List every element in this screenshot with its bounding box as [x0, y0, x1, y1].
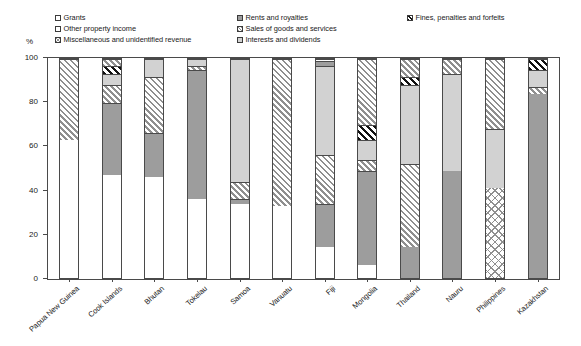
bar-segment[interactable]	[401, 59, 419, 77]
bar-segment[interactable]	[358, 171, 376, 265]
bar-segment[interactable]	[358, 265, 376, 278]
legend-swatch-icon	[55, 26, 61, 32]
bar-slot	[91, 58, 134, 279]
stacked-bar[interactable]	[400, 58, 420, 279]
bar-segment[interactable]	[529, 70, 547, 88]
bar-segment[interactable]	[273, 59, 291, 206]
bar-segment[interactable]	[401, 247, 419, 278]
bar-segment[interactable]	[273, 206, 291, 278]
legend-item-label: Other property income	[64, 23, 136, 34]
bar-segment[interactable]	[443, 171, 461, 278]
bar-segment[interactable]	[486, 129, 504, 188]
bar-slot	[48, 58, 91, 279]
bar-segment[interactable]	[486, 188, 504, 278]
bar-slot	[346, 58, 389, 279]
bar-segment[interactable]	[145, 133, 163, 177]
bar-segment[interactable]	[145, 77, 163, 134]
bar-segment[interactable]	[316, 155, 334, 203]
bar-slot	[261, 58, 304, 279]
legend-swatch-icon	[237, 37, 243, 43]
bar-segment[interactable]	[145, 59, 163, 77]
bar-segment[interactable]	[188, 199, 206, 278]
bar-segment[interactable]	[529, 94, 547, 278]
x-axis-label: Fiji	[324, 284, 337, 297]
bar-segment[interactable]	[401, 77, 419, 86]
x-axis-labels: Papua New GuineaCook IslandsBhutanTokela…	[48, 284, 559, 344]
bar-segment[interactable]	[103, 74, 121, 85]
stacked-bar[interactable]	[144, 58, 164, 279]
legend-item[interactable]: Miscellaneous and unidentified revenue	[55, 34, 237, 45]
bar-slot	[431, 58, 474, 279]
legend-swatch-icon	[55, 37, 61, 43]
legend-item[interactable]: Other property income	[55, 23, 237, 34]
y-axis-unit-label: %	[26, 37, 33, 46]
bar-slot	[389, 58, 432, 279]
bar-segment[interactable]	[60, 59, 78, 140]
bar-segment[interactable]	[231, 59, 249, 182]
bar-segment[interactable]	[231, 182, 249, 200]
bar-segment[interactable]	[103, 66, 121, 75]
stacked-bar[interactable]	[59, 58, 79, 279]
stacked-bar[interactable]	[357, 58, 377, 279]
stacked-bar[interactable]	[528, 58, 548, 279]
bar-segment[interactable]	[443, 74, 461, 170]
y-axis-tick-label: 20	[29, 229, 38, 238]
bar-segment[interactable]	[103, 175, 121, 278]
legend-item[interactable]: Sales of goods and services	[237, 23, 407, 34]
x-axis-label: Nauru	[444, 284, 465, 304]
bar-segment[interactable]	[529, 59, 547, 70]
bar-segment[interactable]	[103, 85, 121, 103]
bar-slot	[176, 58, 219, 279]
legend-item-label: Fines, penalties and forfeits	[416, 12, 505, 23]
x-axis-tick-mark	[410, 279, 411, 282]
stacked-bar[interactable]	[442, 58, 462, 279]
x-axis-label: Tokelau	[184, 284, 209, 308]
stacked-bar[interactable]	[485, 58, 505, 279]
bar-segment[interactable]	[231, 204, 249, 278]
bar-segment[interactable]	[358, 140, 376, 160]
bar-slot	[133, 58, 176, 279]
bar-segment[interactable]	[358, 59, 376, 125]
legend-item[interactable]: Interests and dividends	[237, 34, 407, 45]
bar-segment[interactable]	[486, 59, 504, 129]
legend-item[interactable]: Fines, penalties and forfeits	[407, 12, 567, 23]
stacked-bar[interactable]	[315, 58, 335, 279]
bar-segment[interactable]	[188, 70, 206, 199]
x-axis-label: Vanuatu	[268, 284, 294, 309]
bar-segment[interactable]	[60, 140, 78, 278]
bar-segment[interactable]	[145, 177, 163, 278]
x-axis-tick-mark	[367, 279, 368, 282]
legend-item[interactable]: Grants	[55, 12, 237, 23]
y-axis-tick-label: 40	[29, 185, 38, 194]
legend-item[interactable]: Rents and royalties	[237, 12, 407, 23]
bar-segment[interactable]	[316, 204, 334, 248]
stacked-bar[interactable]	[187, 58, 207, 279]
x-axis-label: Thailand	[395, 284, 422, 310]
x-axis-label: Mongolia	[351, 284, 379, 311]
bar-segment[interactable]	[358, 125, 376, 140]
legend-item-label: Rents and royalties	[246, 12, 308, 23]
y-axis-tick-label: 100	[25, 53, 38, 62]
x-axis-tick-mark	[154, 279, 155, 282]
bar-segment[interactable]	[401, 164, 419, 247]
stacked-bar[interactable]	[102, 58, 122, 279]
legend-item-label: Interests and dividends	[246, 34, 321, 45]
x-axis-tick-mark	[495, 279, 496, 282]
bar-segment[interactable]	[401, 85, 419, 164]
x-axis-label: Kazakhstan	[515, 284, 550, 317]
stacked-bars-container	[48, 58, 559, 279]
stacked-bar[interactable]	[230, 58, 250, 279]
bar-segment[interactable]	[103, 103, 121, 175]
y-axis-tick-label: 0	[34, 274, 38, 283]
bar-slot	[516, 58, 559, 279]
stacked-bar[interactable]	[272, 58, 292, 279]
bar-slot	[218, 58, 261, 279]
bar-segment[interactable]	[316, 66, 334, 156]
y-axis-tick-label: 80	[29, 97, 38, 106]
legend-item-label: Sales of goods and services	[246, 23, 337, 34]
x-axis-tick-mark	[325, 279, 326, 282]
bar-segment[interactable]	[358, 160, 376, 171]
bar-segment[interactable]	[316, 247, 334, 278]
bar-segment[interactable]	[443, 59, 461, 74]
chart-legend: GrantsOther property incomeMiscellaneous…	[55, 12, 565, 48]
